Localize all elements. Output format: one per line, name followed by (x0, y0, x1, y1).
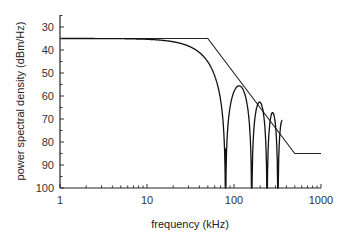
y-axis-title: power spectral density (dBm/Hz) (14, 22, 26, 181)
x-tick-label: 1 (57, 194, 63, 206)
psd-chart: 30405060708090100 1101001000 frequency (… (0, 0, 348, 240)
x-tick-label: 100 (225, 194, 243, 206)
psd-mask-line (60, 39, 321, 154)
x-tick-label: 1000 (309, 194, 333, 206)
x-axis: 1101001000 (57, 184, 333, 206)
plot-lines (60, 39, 321, 189)
signal-psd-line (60, 39, 282, 189)
y-axis: 30405060708090100 (36, 15, 64, 194)
y-tick-label: 30 (42, 21, 54, 33)
y-tick-label: 90 (42, 159, 54, 171)
y-tick-label: 80 (42, 136, 54, 148)
y-tick-label: 100 (36, 182, 54, 194)
y-tick-label: 70 (42, 113, 54, 125)
y-tick-label: 60 (42, 90, 54, 102)
y-tick-label: 50 (42, 67, 54, 79)
x-axis-title: frequency (kHz) (151, 218, 229, 230)
x-tick-label: 10 (141, 194, 153, 206)
y-tick-label: 40 (42, 44, 54, 56)
